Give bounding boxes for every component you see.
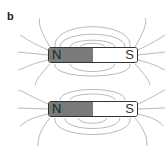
north-pole: N <box>49 48 93 62</box>
north-pole: N <box>49 102 93 116</box>
south-pole: S <box>93 48 137 62</box>
bar-magnet-1: N S <box>48 47 138 63</box>
south-pole: S <box>93 102 137 116</box>
bar-magnet-2: N S <box>48 101 138 117</box>
field-lines-magnet-2 <box>18 90 165 147</box>
field-lines <box>0 0 165 154</box>
